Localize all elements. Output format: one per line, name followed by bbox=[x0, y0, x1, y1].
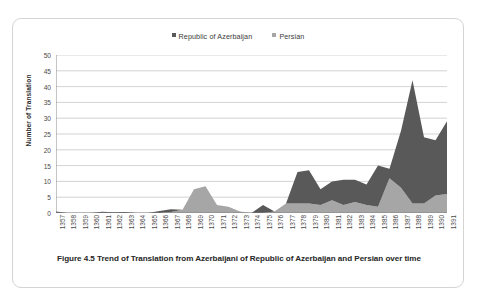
x-tick-label-1363: 1363 bbox=[128, 215, 135, 229]
y-axis-tick-labels: 50454035302520151050 bbox=[27, 55, 51, 213]
x-tick-label-1365: 1365 bbox=[151, 215, 158, 229]
x-tick-label-1364: 1364 bbox=[139, 215, 146, 229]
x-tick-label-1376: 1376 bbox=[277, 215, 284, 229]
figure-caption: Figure 4.5 Trend of Translation from Aze… bbox=[31, 253, 447, 265]
x-tick-label-1374: 1374 bbox=[254, 215, 261, 229]
x-tick-label-1366: 1366 bbox=[162, 215, 169, 229]
x-axis-tick-labels: 1357135813591360136113621363136413651366… bbox=[56, 215, 447, 253]
x-tick-label-1369: 1369 bbox=[197, 215, 204, 229]
x-tick-label-1361: 1361 bbox=[105, 215, 112, 229]
x-tick-label-1360: 1360 bbox=[93, 215, 100, 229]
x-tick-label-1362: 1362 bbox=[116, 215, 123, 229]
y-tick-label: 45 bbox=[27, 67, 51, 74]
y-tick-label: 5 bbox=[27, 194, 51, 201]
x-tick-label-1389: 1389 bbox=[427, 215, 434, 229]
y-tick-label: 15 bbox=[27, 162, 51, 169]
plot-area bbox=[56, 55, 447, 213]
y-tick-label: 30 bbox=[27, 115, 51, 122]
x-tick-label-1357: 1357 bbox=[59, 215, 66, 229]
x-tick-label-1379: 1379 bbox=[312, 215, 319, 229]
stacked-area-chart bbox=[56, 55, 447, 213]
y-tick-label: 25 bbox=[27, 131, 51, 138]
x-tick-label-1383: 1383 bbox=[358, 215, 365, 229]
x-tick-label-1385: 1385 bbox=[381, 215, 388, 229]
y-tick-label: 0 bbox=[27, 210, 51, 217]
area-series-persian bbox=[56, 178, 447, 213]
x-tick-label-1375: 1375 bbox=[266, 215, 273, 229]
x-tick-label-1382: 1382 bbox=[346, 215, 353, 229]
x-tick-label-1381: 1381 bbox=[335, 215, 342, 229]
x-tick-label-1391: 1391 bbox=[450, 215, 457, 229]
x-tick-label-1359: 1359 bbox=[82, 215, 89, 229]
x-tick-label-1380: 1380 bbox=[323, 215, 330, 229]
y-tick-label: 35 bbox=[27, 99, 51, 106]
y-tick-label: 10 bbox=[27, 178, 51, 185]
figure-frame: Republic of Azerbaijan Persian Number of… bbox=[12, 18, 464, 288]
chart-plot-wrapper: Number of Translation 504540353025201510… bbox=[13, 19, 465, 289]
x-tick-label-1358: 1358 bbox=[70, 215, 77, 229]
x-tick-label-1377: 1377 bbox=[289, 215, 296, 229]
x-tick-label-1373: 1373 bbox=[243, 215, 250, 229]
y-tick-label: 50 bbox=[27, 52, 51, 59]
y-tick-label: 40 bbox=[27, 83, 51, 90]
x-tick-label-1388: 1388 bbox=[415, 215, 422, 229]
y-tick-label: 20 bbox=[27, 146, 51, 153]
x-tick-label-1378: 1378 bbox=[300, 215, 307, 229]
x-tick-label-1372: 1372 bbox=[231, 215, 238, 229]
x-tick-label-1371: 1371 bbox=[220, 215, 227, 229]
x-tick-label-1390: 1390 bbox=[438, 215, 445, 229]
x-tick-label-1370: 1370 bbox=[208, 215, 215, 229]
x-tick-label-1367: 1367 bbox=[174, 215, 181, 229]
x-tick-label-1386: 1386 bbox=[392, 215, 399, 229]
x-tick-label-1387: 1387 bbox=[404, 215, 411, 229]
x-tick-label-1368: 1368 bbox=[185, 215, 192, 229]
x-tick-label-1384: 1384 bbox=[369, 215, 376, 229]
